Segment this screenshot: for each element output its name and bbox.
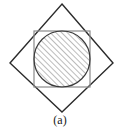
figure-container: (a) [0, 0, 120, 134]
figure-caption: (a) [0, 113, 120, 127]
